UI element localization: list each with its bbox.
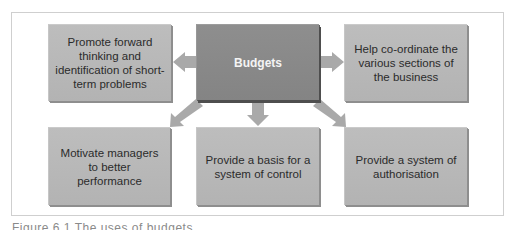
node-label: Motivate managers to better performance [55,146,164,188]
arrow-to-top-left [173,52,196,72]
node-label: Help co-ordinate the various sections of… [351,42,461,84]
arrow-to-bottom-right [313,99,346,127]
center-label: Budgets [234,56,282,70]
node-label: Provide a system of authorisation [351,153,461,181]
node-bottom-left: Motivate managers to better performance [48,127,170,205]
node-bottom-right: Provide a system of authorisation [344,127,467,205]
figure-caption: Figure 6.1 The uses of budgets [12,221,193,230]
node-label: Provide a basis for a system of control [203,153,313,181]
arrow-to-bottom-middle [247,102,269,126]
node-top-right: Help co-ordinate the various sections of… [344,24,467,101]
node-label: Promote forward thinking and identificat… [55,35,165,91]
node-bottom-middle: Provide a basis for a system of control [196,127,319,205]
arrow-to-bottom-left [170,99,203,127]
node-center-budgets: Budgets [196,24,319,100]
arrow-to-top-right [320,52,344,72]
node-top-left: Promote forward thinking and identificat… [48,24,171,101]
